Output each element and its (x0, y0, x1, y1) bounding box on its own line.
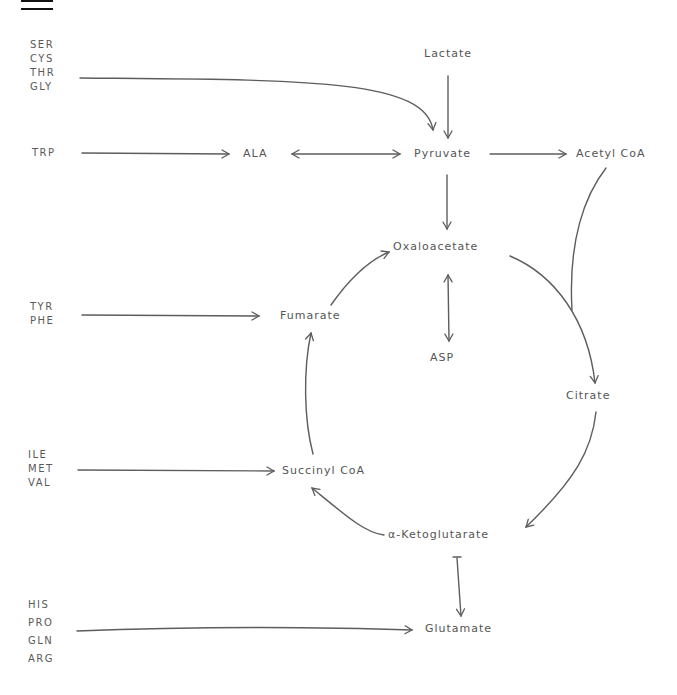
aa-met: MET (28, 462, 54, 476)
aa-ile: ILE (28, 448, 54, 462)
aa-val: VAL (28, 476, 54, 490)
metabolite-oxaloacetate: Oxaloacetate (393, 240, 478, 253)
metabolite-glutamate: Glutamate (425, 622, 492, 635)
aa-phe: PHE (30, 314, 54, 328)
metabolite-alanine: ALA (243, 147, 267, 160)
aa-gln: GLN (28, 632, 54, 650)
arrow-akg-to-succinylcoa (312, 488, 384, 535)
metabolic-diagram: SER CYS THR GLY TRP TYR PHE ILE MET VAL … (0, 0, 677, 695)
aa-group-to-pyruvate: SER CYS THR GLY (30, 38, 55, 94)
aa-gly: GLY (30, 80, 55, 94)
aa-ser: SER (30, 38, 55, 52)
arrow-ser-group-to-pyruvate (80, 78, 433, 130)
metabolite-pyruvate: Pyruvate (414, 147, 471, 160)
arrow-ile-met-val-to-succinylcoa (78, 470, 274, 471)
arrow-citrate-to-akg (526, 412, 596, 527)
arrow-akg-to-glutamate (457, 558, 461, 616)
aa-group-to-fumarate: TYR PHE (30, 300, 54, 328)
line-acetylcoa-to-citrate (571, 168, 606, 310)
metabolite-fumarate: Fumarate (280, 309, 341, 322)
metabolite-succinyl-coa: Succinyl CoA (282, 464, 365, 477)
aa-tyr: TYR (30, 300, 54, 314)
metabolite-alpha-ketoglutarate: α-Ketoglutarate (388, 528, 489, 541)
aa-group-to-glutamate: HIS PRO GLN ARG (28, 596, 54, 668)
aa-cys: CYS (30, 52, 55, 66)
aa-arg: ARG (28, 650, 54, 668)
aa-thr: THR (30, 66, 55, 80)
metabolite-acetyl-coa: Acetyl CoA (576, 147, 645, 160)
arrow-succinylcoa-to-fumarate (306, 333, 313, 454)
metabolite-citrate: Citrate (566, 389, 610, 402)
aa-group-to-alanine: TRP (32, 146, 56, 160)
metabolite-lactate: Lactate (424, 47, 472, 60)
arrow-oxaloacetate-to-citrate (510, 256, 595, 383)
arrow-fumarate-to-oxaloacetate (331, 252, 389, 305)
arrow-tyr-phe-to-fumarate (82, 315, 259, 316)
aa-his: HIS (28, 596, 54, 614)
pathway-arrows (0, 0, 677, 695)
aa-group-to-succinylcoa: ILE MET VAL (28, 448, 54, 490)
arrow-trp-to-ala (82, 153, 229, 154)
arrow-his-group-to-glutamate (77, 628, 412, 632)
aa-trp: TRP (32, 146, 56, 160)
aa-pro: PRO (28, 614, 54, 632)
metabolite-aspartate: ASP (430, 351, 454, 364)
arrow-oxaloacetate-asp-bidirectional (448, 275, 449, 341)
